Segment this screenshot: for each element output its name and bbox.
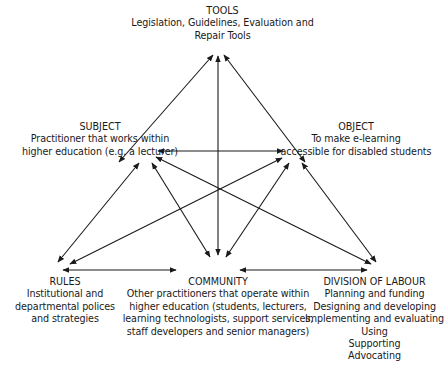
node-subject-title: SUBJECT <box>0 121 200 133</box>
node-object-line-2: accessible for disabled students <box>268 146 444 158</box>
node-subject-line-2: higher education (e.g. a lecturer) <box>0 146 200 158</box>
node-community: COMMUNITY Other practitioners that opera… <box>100 276 336 338</box>
node-community-line-2: higher education (students, lecturers, <box>100 301 336 313</box>
node-subject: SUBJECT Practitioner that works within h… <box>0 121 200 158</box>
node-tools: TOOLS Legislation, Guidelines, Evaluatio… <box>105 5 340 42</box>
node-division-line-2: Designing and developing <box>305 301 444 313</box>
arrow-object-rules <box>70 158 282 264</box>
node-tools-line-1: Legislation, Guidelines, Evaluation and <box>105 17 340 29</box>
node-community-title: COMMUNITY <box>100 276 336 288</box>
node-community-line-4: staff developers and senior managers) <box>100 326 336 338</box>
node-tools-line-2: Repair Tools <box>105 30 340 42</box>
node-object-line-1: To make e-learning <box>268 133 444 145</box>
node-division-line-4: Using <box>305 326 444 338</box>
node-division-line-6: Advocating <box>305 350 444 362</box>
arrow-subject-rules <box>58 163 139 262</box>
arrow-object-division <box>302 163 376 262</box>
node-object: OBJECT To make e-learning accessible for… <box>268 121 444 158</box>
node-division-line-5: Supporting <box>305 338 444 350</box>
node-division-title: DIVISION OF LABOUR <box>305 276 444 288</box>
node-tools-title: TOOLS <box>105 5 340 17</box>
arrow-subject-community <box>152 163 210 257</box>
arrow-object-community <box>226 163 289 257</box>
node-division-line-1: Planning and funding <box>305 288 444 300</box>
node-division-of-labour: DIVISION OF LABOUR Planning and funding … <box>305 276 444 363</box>
node-subject-line-1: Practitioner that works within <box>0 133 200 145</box>
activity-theory-diagram: TOOLS Legislation, Guidelines, Evaluatio… <box>0 0 444 375</box>
node-object-title: OBJECT <box>268 121 444 133</box>
node-community-line-3: learning technologists, support services… <box>100 313 336 325</box>
arrow-subject-division <box>156 157 371 264</box>
node-community-line-1: Other practitioners that operate within <box>100 288 336 300</box>
node-division-line-3: Implementing and evaluating <box>305 313 444 325</box>
